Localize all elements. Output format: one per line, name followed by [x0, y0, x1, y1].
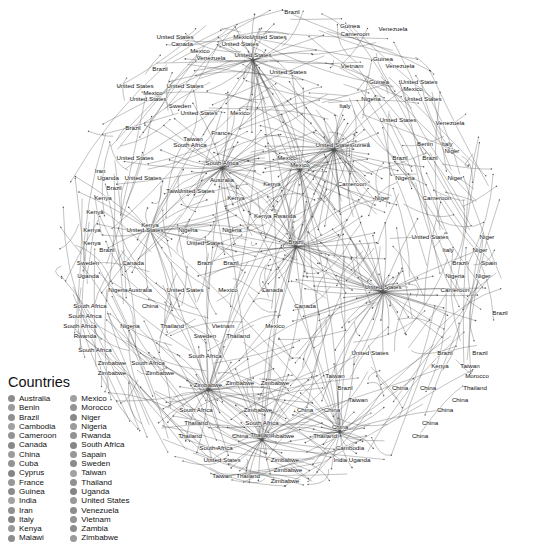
- graph-node: [269, 473, 271, 475]
- graph-node-label: Vietnam: [212, 322, 235, 329]
- graph-node: [65, 280, 66, 281]
- graph-node-label: Zimbabwe: [274, 466, 303, 473]
- legend-item: India: [8, 496, 56, 505]
- graph-node-label: Taiwan: [348, 396, 368, 403]
- graph-node: [392, 277, 394, 279]
- graph-node: [359, 240, 361, 242]
- graph-node: [147, 207, 149, 209]
- graph-node: [303, 484, 304, 485]
- graph-node: [358, 199, 360, 201]
- graph-node: [199, 161, 200, 162]
- graph-node: [429, 319, 431, 321]
- graph-node: [97, 223, 99, 225]
- graph-node: [328, 315, 329, 316]
- graph-node-label: United States: [116, 82, 153, 89]
- graph-node: [223, 346, 225, 348]
- graph-node: [393, 246, 394, 247]
- graph-node: [272, 206, 274, 208]
- graph-node: [210, 225, 212, 227]
- graph-node: [303, 275, 305, 277]
- graph-node: [220, 30, 221, 31]
- graph-node: [363, 427, 365, 429]
- graph-node: [111, 228, 112, 229]
- graph-node-label: Brazil: [284, 8, 299, 15]
- graph-node: [361, 216, 363, 218]
- graph-node: [308, 478, 310, 480]
- graph-node: [320, 234, 322, 236]
- graph-node: [105, 241, 106, 242]
- graph-node: [265, 237, 266, 238]
- graph-node: [128, 330, 129, 331]
- graph-node: [233, 244, 235, 246]
- graph-node: [178, 110, 179, 111]
- graph-node: [384, 258, 386, 260]
- graph-node: [445, 192, 446, 193]
- legend-item-label: Venezuela: [81, 506, 118, 515]
- graph-node-label: Venezuela: [386, 62, 415, 69]
- graph-node: [372, 448, 374, 450]
- graph-node: [234, 26, 236, 28]
- graph-node: [303, 193, 304, 194]
- graph-node-label: China: [232, 432, 249, 439]
- graph-edge: [282, 87, 321, 105]
- graph-node: [284, 387, 285, 388]
- graph-node: [267, 143, 269, 145]
- graph-node: [343, 297, 345, 299]
- graph-node: [443, 328, 444, 329]
- graph-node: [376, 375, 377, 376]
- legend-swatch-circle-icon: [8, 516, 15, 523]
- graph-node: [434, 305, 435, 306]
- graph-node: [244, 272, 245, 273]
- graph-node: [262, 151, 263, 152]
- graph-edge: [207, 267, 242, 277]
- graph-node: [370, 412, 371, 413]
- legend-item-label: Taiwan: [81, 468, 106, 477]
- graph-node-label: Spain: [481, 259, 497, 266]
- graph-node: [252, 94, 254, 96]
- graph-node: [308, 169, 310, 171]
- graph-node: [341, 18, 342, 19]
- graph-node: [383, 407, 385, 409]
- graph-node: [310, 122, 312, 124]
- graph-node-label: Brazil: [472, 349, 487, 356]
- legend-item: Zimbabwe: [70, 533, 129, 542]
- graph-node: [241, 234, 242, 235]
- graph-node: [99, 272, 100, 273]
- graph-node: [439, 272, 440, 273]
- graph-node: [230, 467, 232, 469]
- graph-node-label: China: [437, 406, 454, 413]
- graph-node: [195, 75, 196, 76]
- legend-item: France: [8, 478, 56, 487]
- graph-node: [322, 387, 323, 388]
- graph-node: [214, 184, 216, 186]
- graph-node: [279, 315, 280, 316]
- graph-edge: [467, 200, 499, 360]
- graph-node: [351, 256, 353, 258]
- graph-node: [266, 453, 267, 454]
- graph-node: [353, 148, 355, 150]
- graph-node: [308, 36, 309, 37]
- graph-node: [326, 189, 328, 191]
- graph-node: [389, 305, 391, 307]
- graph-node: [417, 277, 419, 279]
- graph-node-label: Brazil: [152, 65, 167, 72]
- graph-node: [246, 467, 248, 469]
- graph-node: [189, 219, 190, 220]
- legend-item: Uganda: [70, 487, 129, 496]
- graph-node: [372, 307, 374, 309]
- graph-node: [397, 311, 399, 313]
- graph-node: [353, 161, 354, 162]
- graph-node: [249, 481, 251, 483]
- graph-node: [193, 90, 194, 91]
- graph-node-label: Italy: [441, 140, 453, 147]
- graph-node-label: China: [420, 384, 437, 391]
- graph-node-label: United States: [221, 40, 258, 47]
- graph-node: [341, 327, 343, 329]
- graph-node: [272, 93, 274, 95]
- graph-node: [290, 440, 292, 442]
- graph-node: [367, 383, 368, 384]
- graph-node: [368, 92, 369, 93]
- graph-node: [239, 360, 240, 361]
- graph-node: [228, 464, 230, 466]
- graph-node-label: Thailand: [226, 332, 250, 339]
